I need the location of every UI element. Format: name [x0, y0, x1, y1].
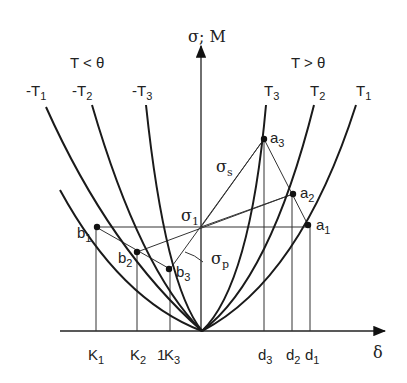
- curve-neg-T1: [46, 107, 202, 331]
- point-a1: [305, 222, 311, 228]
- region-left-label: T < θ: [70, 54, 104, 71]
- label-sigma1: σ1: [181, 206, 199, 228]
- tick-K3: K3: [164, 346, 180, 366]
- y-axis-label: σ; M: [188, 27, 226, 46]
- label-neg-T2: -T2: [72, 82, 92, 102]
- label-a2: a2: [300, 184, 314, 204]
- label-sigma-p: σp: [211, 249, 229, 271]
- drop-lines: [96, 139, 310, 331]
- label-a1: a1: [316, 216, 330, 236]
- curve-T2: [202, 105, 314, 331]
- tick-K1: K1: [88, 346, 104, 366]
- point-b2: [134, 249, 140, 255]
- region-right-label: T > θ: [291, 54, 325, 71]
- point-b3: [166, 266, 172, 272]
- point-b1: [94, 224, 100, 230]
- point-a2: [290, 191, 296, 197]
- stress-strain-diagram: σ; M δ 1 T < θ T > θ -T1 -T2 -T3 T3 T2 T…: [0, 0, 407, 383]
- x-axis-label: δ: [373, 343, 383, 362]
- sigma-p-leader: [185, 252, 203, 262]
- point-a3: [261, 136, 267, 142]
- tick-d3: d3: [258, 346, 272, 366]
- tick-d2: d2: [286, 346, 300, 366]
- label-T1: T1: [356, 82, 371, 102]
- label-sigma-s: σs: [216, 157, 233, 179]
- label-neg-T1: -T1: [26, 82, 46, 102]
- tick-d1: d1: [305, 346, 319, 366]
- label-T3: T3: [264, 82, 279, 102]
- label-a3: a3: [270, 129, 284, 149]
- label-neg-T3: -T3: [132, 82, 152, 102]
- label-T2: T2: [310, 82, 325, 102]
- tick-K2: K2: [130, 346, 146, 366]
- label-b1: b1: [77, 224, 91, 244]
